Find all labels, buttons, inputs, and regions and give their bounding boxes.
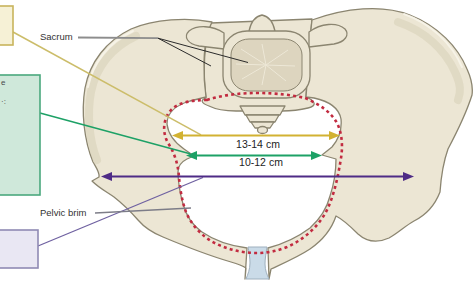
sacrum-label: Sacrum xyxy=(40,31,73,42)
inlet-lower-diameter-label: 10-12 cm xyxy=(239,156,283,168)
arrowhead-right-icon xyxy=(311,151,322,160)
pelvic-brim-label: Pelvic brim xyxy=(40,207,87,218)
inlet-upper-diameter-label: 13-14 cm xyxy=(236,138,280,150)
legend-yellow-box xyxy=(0,6,13,45)
legend-green-box xyxy=(0,75,40,195)
legend-green-partial-text-1: e xyxy=(1,78,6,87)
sacral-segments xyxy=(240,106,285,134)
pelvic-inlet-diagram: e ·: Sacrum Pelvic brim 13-14 cm 10-12 c… xyxy=(0,0,473,285)
legend-green-partial-text-2: ·: xyxy=(1,97,6,106)
legend-purple-box xyxy=(0,230,38,268)
pelvis-illustration: e ·: Sacrum Pelvic brim 13-14 cm 10-12 c… xyxy=(0,0,473,285)
